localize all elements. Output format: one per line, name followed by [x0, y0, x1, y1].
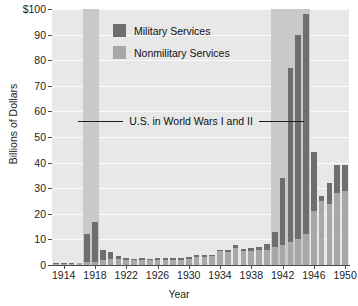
legend-item-military: Military Services — [113, 24, 230, 37]
bar-1926 — [155, 258, 161, 265]
y-tick-label: 30 — [0, 183, 46, 193]
bar-segment-nonmilitary — [303, 234, 309, 265]
x-tick-mark — [220, 265, 221, 269]
y-tick-label: 10 — [0, 234, 46, 244]
x-tick-mark — [64, 265, 65, 269]
bar-1942 — [280, 178, 286, 265]
bar-1939 — [256, 247, 262, 265]
bar-1944 — [295, 35, 301, 265]
x-tick-label: 1950 — [325, 269, 358, 281]
bar-segment-military — [100, 250, 106, 260]
bar-segment-military — [342, 165, 348, 191]
bar-1931 — [194, 255, 200, 265]
bar-1929 — [178, 258, 184, 265]
y-tick-mark — [48, 86, 52, 87]
bar-segment-nonmilitary — [248, 251, 254, 265]
annotation-label: U.S. in World Wars I and II — [123, 115, 259, 127]
y-tick-mark — [48, 111, 52, 112]
bar-segment-nonmilitary — [241, 251, 247, 265]
bar-segment-military — [334, 165, 340, 193]
bar-segment-military — [288, 68, 294, 242]
bar-segment-nonmilitary — [264, 250, 270, 265]
bar-1948 — [327, 183, 333, 265]
y-tick-label: 90 — [0, 30, 46, 40]
bar-segment-nonmilitary — [334, 193, 340, 265]
bar-segment-nonmilitary — [288, 242, 294, 265]
bar-1922 — [123, 258, 129, 265]
bar-1941 — [272, 232, 278, 265]
annotation-rule-right — [259, 121, 304, 122]
annotation-rule-left — [78, 121, 123, 122]
bar-1935 — [225, 250, 231, 265]
y-tick-mark — [48, 188, 52, 189]
x-axis-label: Year — [0, 288, 358, 300]
bar-segment-military — [272, 232, 278, 247]
bar-segment-nonmilitary — [319, 201, 325, 265]
bar-segment-military — [84, 234, 90, 262]
bar-segment-nonmilitary — [225, 252, 231, 265]
y-tick-label: $100 — [0, 4, 46, 14]
bar-segment-military — [295, 35, 301, 240]
y-tick-mark — [48, 137, 52, 138]
bar-segment-nonmilitary — [311, 211, 317, 265]
legend-label: Military Services — [134, 25, 210, 37]
x-tick-mark — [314, 265, 315, 269]
y-tick-label: 20 — [0, 209, 46, 219]
bar-segment-nonmilitary — [209, 256, 215, 265]
bar-segment-nonmilitary — [202, 257, 208, 265]
bar-1917 — [84, 234, 90, 265]
chart-legend: Military ServicesNonmilitary Services — [113, 24, 230, 68]
bar-segment-nonmilitary — [272, 247, 278, 265]
bar-segment-military — [280, 178, 286, 245]
bar-1921 — [116, 256, 122, 265]
legend-label: Nonmilitary Services — [134, 47, 230, 59]
chart-container: $1009080706050403020100 1914191819221926… — [0, 0, 358, 306]
x-tick-mark — [95, 265, 96, 269]
x-tick-mark — [283, 265, 284, 269]
bar-1950 — [342, 165, 348, 265]
bar-1919 — [100, 250, 106, 265]
bar-1940 — [264, 244, 270, 265]
x-tick-mark — [126, 265, 127, 269]
bar-1932 — [202, 255, 208, 265]
bar-1943 — [288, 68, 294, 265]
x-tick-mark — [345, 265, 346, 269]
y-tick-mark — [48, 265, 52, 266]
bar-1936 — [233, 245, 239, 265]
legend-swatch — [113, 46, 126, 59]
bar-segment-nonmilitary — [256, 250, 262, 265]
y-tick-label: 0 — [0, 260, 46, 270]
bar-1934 — [217, 250, 223, 265]
legend-swatch — [113, 24, 126, 37]
bar-1927 — [163, 258, 169, 265]
bar-segment-military — [311, 152, 317, 211]
bar-segment-nonmilitary — [194, 257, 200, 265]
bar-1920 — [108, 252, 114, 265]
y-axis-label: Billions of Dollars — [7, 64, 19, 184]
x-tick-mark — [189, 265, 190, 269]
bar-1946 — [311, 152, 317, 265]
y-tick-mark — [48, 163, 52, 164]
bar-1930 — [186, 257, 192, 265]
bar-1928 — [170, 258, 176, 265]
bar-segment-nonmilitary — [327, 204, 333, 265]
bar-1937 — [241, 249, 247, 265]
bar-segment-nonmilitary — [233, 248, 239, 265]
bar-1938 — [248, 248, 254, 265]
y-tick-mark — [48, 35, 52, 36]
legend-item-nonmilitary: Nonmilitary Services — [113, 46, 230, 59]
y-tick-mark — [48, 214, 52, 215]
x-tick-mark — [158, 265, 159, 269]
bar-1924 — [139, 258, 145, 265]
bar-1947 — [319, 196, 325, 265]
y-tick-mark — [48, 9, 52, 10]
bar-1933 — [209, 255, 215, 265]
bar-segment-military — [303, 14, 309, 234]
bar-1945 — [303, 14, 309, 265]
y-tick-mark — [48, 239, 52, 240]
bar-1949 — [334, 165, 340, 265]
bar-segment-military — [92, 222, 98, 262]
x-axis-line — [52, 265, 350, 266]
bar-segment-nonmilitary — [295, 239, 301, 265]
bar-segment-military — [327, 183, 333, 203]
